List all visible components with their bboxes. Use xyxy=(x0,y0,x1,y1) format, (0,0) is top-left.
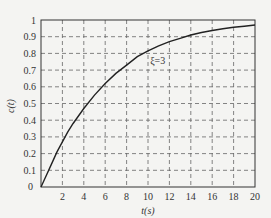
x-tick-label: 2 xyxy=(60,191,65,202)
x-tick-label: 20 xyxy=(250,191,260,202)
y-tick-label: 0.3 xyxy=(24,131,37,142)
y-tick-label: 0.1 xyxy=(24,165,37,176)
y-tick-label: 0.8 xyxy=(24,48,37,59)
y-tick-label: 0.7 xyxy=(24,65,37,76)
grid-lines xyxy=(41,20,255,187)
x-tick-label: 6 xyxy=(103,191,108,202)
x-tick-label: 4 xyxy=(81,191,86,202)
y-axis-ticks: 0.10.20.30.40.50.60.70.80.91 xyxy=(24,15,37,176)
y-tick-label: 1 xyxy=(31,15,36,26)
y-tick-label: 0.5 xyxy=(24,98,37,109)
x-tick-label: 12 xyxy=(164,191,174,202)
origin-label: 0 xyxy=(28,181,33,192)
x-tick-label: 18 xyxy=(229,191,239,202)
x-axis-label: t(s) xyxy=(141,205,155,217)
curve-annotation: ξ=3 xyxy=(150,55,165,67)
y-tick-label: 0.4 xyxy=(24,115,37,126)
y-tick-label: 0.2 xyxy=(24,148,37,159)
x-tick-label: 14 xyxy=(186,191,196,202)
x-tick-label: 16 xyxy=(207,191,217,202)
x-axis-ticks: 2468101214161820 xyxy=(60,191,260,202)
y-axis-label: c(t) xyxy=(5,98,17,113)
y-tick-label: 0.6 xyxy=(24,81,37,92)
x-tick-label: 8 xyxy=(124,191,129,202)
x-tick-label: 10 xyxy=(143,191,153,202)
step-response-chart: 0.10.20.30.40.50.60.70.80.91 24681012141… xyxy=(0,0,271,218)
y-tick-label: 0.9 xyxy=(24,31,37,42)
